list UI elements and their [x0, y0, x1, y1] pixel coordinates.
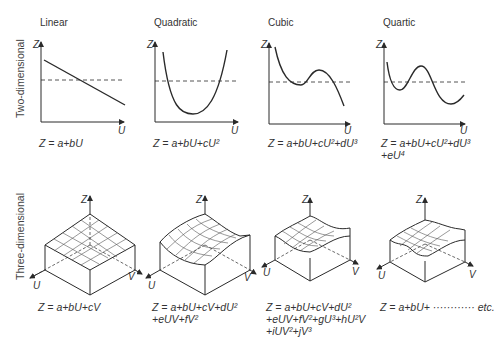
svg-text:Z: Z — [80, 194, 88, 205]
equation-3d-quadratic: Z = a+bU+cV+dU² +eUV+fV² — [152, 301, 237, 325]
svg-text:U: U — [33, 280, 41, 291]
surface-plane — [30, 196, 142, 295]
plot-quartic — [384, 43, 466, 124]
plot-linear — [41, 42, 125, 122]
equation-3d-cubic: Z = a+bU+cV+dU² +eUV+fV²+gU³+hU²V +iUV²+… — [266, 301, 365, 337]
equation-3d-general: Z = a+bU+ ············ etc. — [380, 301, 495, 313]
svg-text:Z: Z — [375, 39, 383, 50]
axis-labels-2d: Z U Z U Z U Z U — [32, 39, 468, 136]
plot-quadratic — [155, 42, 238, 122]
plot-cubic — [269, 43, 350, 124]
surface-cubic — [262, 198, 358, 281]
svg-text:Z: Z — [195, 194, 203, 205]
svg-text:U: U — [231, 125, 239, 136]
svg-text:V: V — [352, 266, 360, 277]
surface-quartic — [377, 198, 473, 282]
svg-text:U: U — [263, 267, 271, 278]
equation-linear: Z = a+bU — [39, 137, 83, 149]
svg-text:U: U — [118, 125, 126, 136]
svg-text:V: V — [244, 272, 252, 283]
surface-quadratic — [146, 196, 256, 295]
svg-text:Z: Z — [260, 39, 268, 50]
svg-text:V: V — [128, 271, 136, 282]
svg-text:U: U — [378, 270, 386, 281]
equation-cubic: Z = a+bU+cU²+dU³ — [268, 137, 357, 149]
svg-text:V: V — [469, 269, 477, 280]
svg-text:U: U — [148, 280, 156, 291]
svg-text:U: U — [460, 125, 468, 136]
equation-quadratic: Z = a+bU+cU² — [153, 137, 219, 149]
svg-text:Z: Z — [146, 39, 154, 50]
svg-text:Z: Z — [415, 194, 423, 205]
equation-3d-linear: Z = a+bU+cV — [38, 301, 100, 313]
svg-text:Z: Z — [301, 194, 309, 205]
svg-text:Z: Z — [32, 39, 40, 50]
svg-text:U: U — [344, 125, 352, 136]
equation-quartic: Z = a+bU+cU²+dU³ +eU⁴ — [381, 137, 470, 161]
